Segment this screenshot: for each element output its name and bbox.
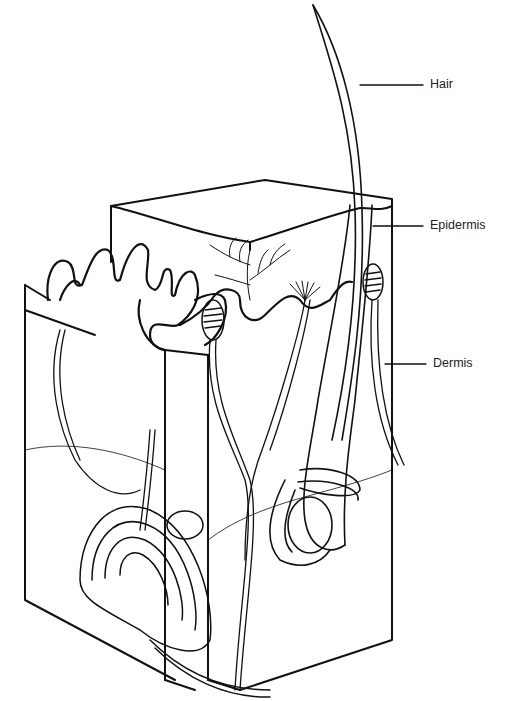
skin-block-outline <box>25 180 392 690</box>
label-dermis: Dermis <box>433 356 473 370</box>
hair-follicle <box>270 205 372 565</box>
nerve-branches <box>210 238 320 300</box>
label-hair: Hair <box>430 77 453 91</box>
hair-shaft <box>313 5 362 440</box>
label-epidermis: Epidermis <box>430 218 486 232</box>
skin-cross-section-diagram: Hair Epidermis Dermis <box>0 0 513 701</box>
skin-block-illustration <box>0 0 513 701</box>
meissner-corpuscles <box>202 264 383 340</box>
